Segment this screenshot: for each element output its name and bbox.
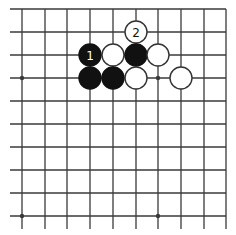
grid-lines — [10, 9, 226, 229]
star-point — [156, 76, 160, 80]
stone-circle — [125, 44, 147, 66]
white-stone: 2 — [125, 21, 147, 43]
black-stone — [79, 67, 101, 89]
stone-circle — [102, 44, 124, 66]
move-number-label: 1 — [86, 49, 94, 63]
stone-circle — [147, 44, 169, 66]
black-stone — [125, 44, 147, 66]
stone-circle — [170, 67, 192, 89]
stone-circle — [102, 67, 124, 89]
move-number-label: 2 — [132, 26, 140, 40]
black-stone — [102, 67, 124, 89]
go-board: 21 — [0, 0, 236, 235]
stone-circle — [79, 67, 101, 89]
star-point — [156, 214, 160, 218]
star-point — [20, 76, 24, 80]
black-stone: 1 — [79, 44, 101, 66]
white-stone — [125, 67, 147, 89]
stone-circle — [125, 67, 147, 89]
white-stone — [102, 44, 124, 66]
white-stone — [170, 67, 192, 89]
star-point — [20, 214, 24, 218]
white-stone — [147, 44, 169, 66]
